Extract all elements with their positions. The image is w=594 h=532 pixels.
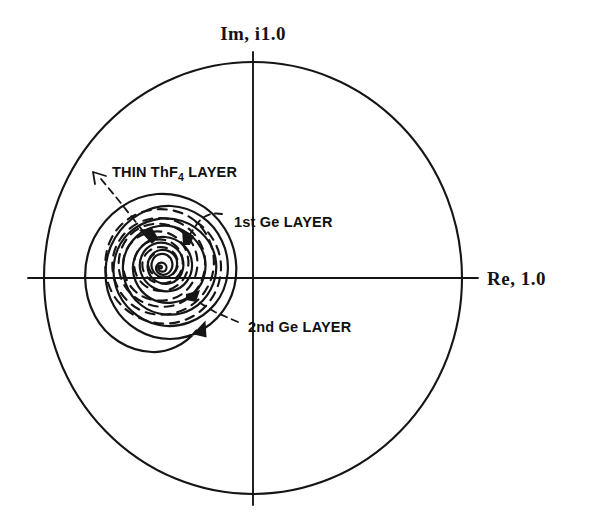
annotation-second-ge-layer: 2nd Ge LAYER bbox=[248, 319, 352, 335]
complex-plane-diagram: Im, i1.0 Re, 1.0 THIN ThF4 LAYER 1st Ge … bbox=[0, 0, 594, 532]
imaginary-axis-label: Im, i1.0 bbox=[220, 23, 286, 44]
annotation-thin-thf4-layer: THIN ThF4 LAYER bbox=[112, 164, 237, 183]
anno-thf4-main: THIN ThF bbox=[112, 164, 178, 180]
svg-text:THIN ThF4 LAYER: THIN ThF4 LAYER bbox=[112, 164, 237, 183]
solid-spiral-arrow-tip bbox=[194, 321, 207, 338]
axes-group bbox=[28, 52, 478, 505]
annotation-first-ge-layer: 1st Ge LAYER bbox=[234, 214, 333, 230]
real-axis-label: Re, 1.0 bbox=[487, 268, 546, 289]
anno-thf4-tail: LAYER bbox=[184, 164, 237, 180]
